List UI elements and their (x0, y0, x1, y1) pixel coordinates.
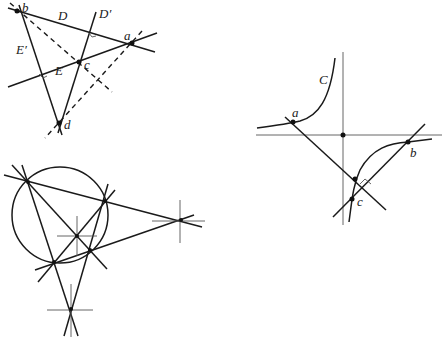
point-P2 (103, 199, 107, 203)
point-c (350, 197, 355, 202)
label-D-prime: D′ (98, 6, 111, 21)
point-P3 (52, 260, 56, 264)
figure-hyperbola: C a b c (256, 52, 442, 225)
label-E: E (54, 63, 63, 78)
line-through-a (285, 117, 386, 210)
label-C: C (319, 72, 328, 87)
label-D: D (57, 8, 68, 23)
point-c (77, 60, 82, 65)
point-Q (69, 307, 73, 311)
point-b (406, 140, 411, 145)
label-E-prime: E′ (15, 42, 27, 57)
point-d (57, 121, 62, 126)
label-c: c (84, 57, 90, 72)
line-P3-P4-R (35, 215, 194, 270)
point-foot (353, 177, 358, 182)
point-center (75, 234, 79, 238)
diagram-canvas: b a c d D D′ E E′ C a b c (0, 0, 442, 337)
label-d: d (64, 117, 71, 132)
label-a: a (292, 105, 299, 120)
figure-orthocentric: b a c d D D′ E E′ (8, 0, 157, 138)
label-b: b (410, 145, 417, 160)
label-b: b (22, 0, 29, 15)
point-a (291, 120, 296, 125)
curve-C-lower-branch (349, 139, 432, 222)
figure-circle-construction (4, 165, 205, 337)
point-R (179, 218, 183, 222)
label-a: a (124, 28, 131, 43)
label-c: c (357, 194, 363, 209)
line-D (8, 8, 155, 52)
point-P4 (88, 248, 92, 252)
point-P1 (26, 180, 30, 184)
line-D-prime (58, 12, 96, 133)
origin-point (341, 133, 346, 138)
point-b (15, 9, 20, 14)
